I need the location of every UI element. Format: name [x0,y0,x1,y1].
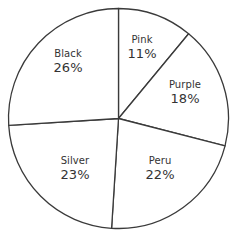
pie-slice-label-pink: Pink11% [127,35,156,61]
pie-slice-label-purple: Purple18% [169,80,201,106]
pie-slice-group [9,9,229,229]
slice-name: Purple [169,80,201,91]
slice-percent: 18% [169,92,201,106]
slice-name: Peru [145,156,174,167]
pie-slice-label-silver: Silver23% [60,156,89,182]
slice-percent: 11% [127,47,156,61]
slice-percent: 22% [145,168,174,182]
slice-percent: 23% [60,168,89,182]
slice-name: Pink [127,35,156,46]
pie-slice-label-black: Black26% [53,49,82,75]
slice-percent: 26% [53,61,82,75]
pie-chart: Pink11%Purple18%Peru22%Silver23%Black26% [0,0,231,237]
slice-name: Silver [60,156,89,167]
pie-chart-canvas [0,0,231,237]
slice-name: Black [53,49,82,60]
pie-slice-label-peru: Peru22% [145,156,174,182]
